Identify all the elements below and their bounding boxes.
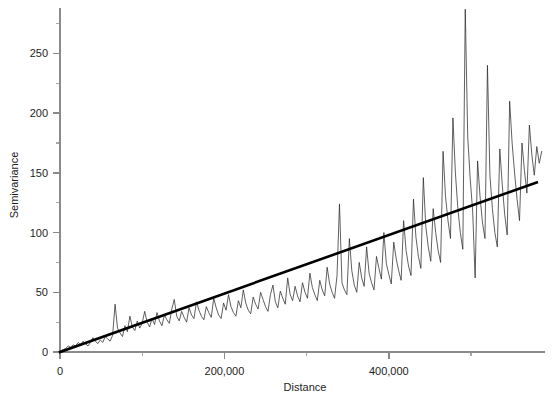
y-tick-label: 250 — [30, 47, 48, 59]
y-tick-label: 100 — [30, 227, 48, 239]
y-tick-label: 150 — [30, 167, 48, 179]
semivariogram-figure: 050100150200250 0200,000400,000 Distance… — [0, 0, 552, 411]
x-axis-tick-labels: 0200,000400,000 — [57, 365, 409, 377]
y-tick-label: 50 — [36, 286, 48, 298]
x-axis-title: Distance — [284, 381, 327, 393]
y-tick-label: 0 — [42, 346, 48, 358]
trend-line — [60, 182, 537, 352]
x-axis-major-ticks — [60, 352, 389, 359]
x-tick-label: 0 — [57, 365, 63, 377]
y-axis-title: Semivariance — [8, 152, 20, 219]
x-tick-label: 200,000 — [205, 365, 245, 377]
chart-canvas: 050100150200250 0200,000400,000 Distance… — [0, 0, 552, 411]
semivariogram-series — [61, 9, 542, 351]
x-tick-label: 400,000 — [369, 365, 409, 377]
y-axis-tick-labels: 050100150200250 — [30, 47, 48, 358]
y-tick-label: 200 — [30, 107, 48, 119]
